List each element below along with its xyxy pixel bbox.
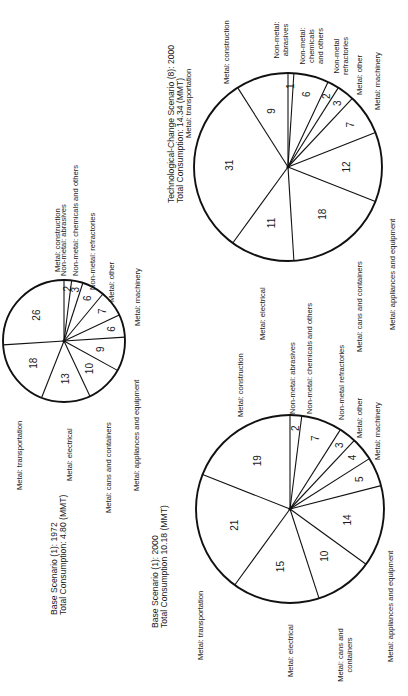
slice-label-metal-electrical: Metal: electrical <box>65 428 74 481</box>
slice-value-metal-other: 4 <box>347 454 358 460</box>
pie-center <box>288 507 291 510</box>
slice-label-metal-other: Metal: other <box>107 261 116 302</box>
slice-label-metal-cans-and-containers: Metal: cans and containers <box>104 422 113 513</box>
slice-label-metal-appliances-and-equipment: Metal: appliances and equipment <box>388 218 397 330</box>
pie-subtitle: Total Consumption: 14.34 (MMT) <box>175 78 185 203</box>
slice-value-metal-construction: 19 <box>252 455 263 467</box>
slice-value-metal-construction: 26 <box>31 309 42 321</box>
slice-label-metal-machinery: Metal: machinery <box>133 268 142 326</box>
slice-label-non-metal-refractories: Non-metal <box>332 38 341 73</box>
slice-divider <box>288 88 338 167</box>
slice-divider <box>288 167 375 202</box>
slice-label-non-metal-chemicals-and-others: and others <box>316 28 325 64</box>
slice-label-metal-other: Metal: other <box>355 397 364 438</box>
slice-value-non-metal-refractories: 3 <box>334 442 345 448</box>
slice-label-metal-cans-and-containers: containers <box>345 637 354 672</box>
slice-divider <box>238 88 288 167</box>
slice-divider <box>290 486 381 509</box>
slice-label-metal-electrical: Metal: electrical <box>286 624 295 677</box>
slice-label-non-metal-abrasives: Non-metal: <box>272 21 281 58</box>
slice-label-non-metal-refractories: Non-metal: refractories <box>88 213 97 290</box>
pie-chart-tech-change-2000: 16237121811319Metal: constructionNon-met… <box>166 20 397 352</box>
slice-value-metal-cans-and-containers: 10 <box>319 550 330 562</box>
slice-value-non-metal-abrasives: 1 <box>285 83 296 89</box>
slice-value-metal-electrical: 15 <box>275 561 286 573</box>
slice-value-metal-cans-and-containers: 10 <box>84 363 95 375</box>
slice-value-metal-machinery: 7 <box>345 122 356 128</box>
pie-chart-base-2000: 273451410152119Metal: constructionNon-me… <box>150 303 395 682</box>
slice-value-metal-appliances-and-equipment: 9 <box>95 346 106 352</box>
slice-divider <box>235 509 290 585</box>
slice-label-metal-appliances-and-equipment: Metal: appliances and equipment <box>132 379 141 491</box>
slice-value-metal-other: 7 <box>97 308 108 314</box>
slice-label-metal-other: Metal: other <box>355 54 364 95</box>
pie-chart-base-1972: 23676910131826Metal: constructionNon-met… <box>3 165 142 615</box>
pie-center <box>62 339 65 342</box>
slice-label-metal-cans-and-containers: Metal: cans and containers <box>355 261 364 352</box>
pie-center <box>286 165 289 168</box>
slice-value-metal-transportation: 21 <box>229 519 240 531</box>
pie-charts-figure: 23676910131826Metal: constructionNon-met… <box>0 0 408 696</box>
slice-value-non-metal-chemicals-and-others: 7 <box>310 435 321 441</box>
slice-value-non-metal-chemicals-and-others: 3 <box>70 287 81 293</box>
slice-label-non-metal-refractories: Non-metal refractories <box>337 345 346 420</box>
slice-value-metal-appliances-and-equipment: 14 <box>342 514 353 526</box>
slice-divider <box>203 474 290 509</box>
slice-value-non-metal-refractories: 6 <box>82 295 93 301</box>
slice-label-non-metal-chemicals-and-others: chemicals <box>307 29 316 63</box>
slice-label-metal-machinery: Metal: machinery <box>373 402 382 460</box>
pie-subtitle: Total Consumption 10.18 (MMT) <box>159 505 169 628</box>
slice-label-metal-construction: Metal: construction <box>236 353 245 417</box>
slice-label-non-metal-abrasives: Non-metal: abrasives <box>59 204 68 276</box>
pie-subtitle: Total Consumption: 4.80 (MMT) <box>58 495 68 615</box>
slice-label-metal-electrical: Metal: electrical <box>258 287 267 340</box>
slice-value-metal-transportation: 31 <box>224 159 235 171</box>
slice-value-metal-appliances-and-equipment: 12 <box>341 161 352 173</box>
slice-label-non-metal-abrasives: abrasives <box>281 24 290 57</box>
slice-divider <box>290 509 319 598</box>
slice-label-non-metal-chemicals-and-others: Non-metal: <box>298 27 307 64</box>
slice-label-non-metal-chemicals-and-others: Non-metal: chemicals and others <box>71 165 80 276</box>
slice-value-non-metal-chemicals-and-others: 6 <box>301 91 312 97</box>
slice-label-metal-transportation: Metal: transportation <box>15 421 24 490</box>
slice-divider <box>288 98 352 167</box>
slice-label-metal-transportation: Metal: transportation <box>184 69 193 138</box>
slice-divider <box>233 167 288 243</box>
slice-label-metal-cans-and-containers: Metal: cans and <box>336 628 345 682</box>
slice-label-non-metal-chemicals-and-others: Non-metal: chemicals and others <box>305 303 314 414</box>
slice-label-metal-construction: Metal: construction <box>222 20 231 84</box>
slice-value-metal-cans-and-containers: 18 <box>317 208 328 220</box>
slice-value-non-metal-refractories: 2 <box>321 93 332 99</box>
slice-divider <box>3 341 64 345</box>
slice-label-non-metal-abrasives: Non-metal: abrasives <box>288 342 297 414</box>
slice-divider <box>288 167 294 261</box>
slice-value-metal-electrical: 11 <box>266 217 277 228</box>
slice-divider <box>42 341 64 398</box>
slice-label-non-metal-refractories: refractories <box>341 37 350 75</box>
slice-value-metal-other: 3 <box>332 100 343 106</box>
slice-value-metal-machinery: 5 <box>354 476 365 482</box>
slice-label-metal-machinery: Metal: machinery <box>373 52 382 110</box>
slice-value-non-metal-abrasives: 2 <box>290 425 301 431</box>
slice-value-metal-machinery: 6 <box>106 326 117 332</box>
slice-value-metal-electrical: 13 <box>60 373 71 385</box>
slice-value-metal-construction: 9 <box>266 108 277 114</box>
slice-value-metal-transportation: 18 <box>28 357 39 369</box>
slice-label-metal-transportation: Metal: transportation <box>196 591 205 660</box>
slice-divider <box>288 132 375 167</box>
slice-divider <box>64 337 125 341</box>
slice-label-metal-appliances-and-equipment: Metal: appliances and equipment <box>386 550 395 662</box>
